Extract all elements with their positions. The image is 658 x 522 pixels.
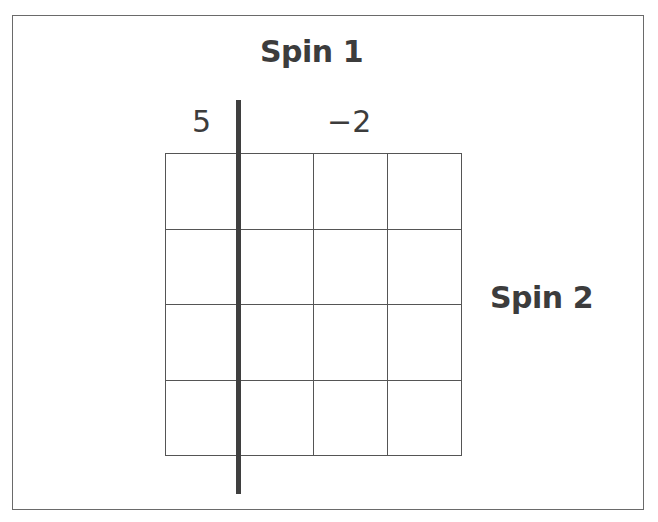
grid-cell xyxy=(388,230,462,306)
spin1-label: Spin 1 xyxy=(260,34,363,69)
grid-cell xyxy=(314,381,388,457)
spin1-value-left: 5 xyxy=(192,104,211,139)
grid-cell xyxy=(166,230,240,306)
grid-cell xyxy=(388,154,462,230)
spin2-label: Spin 2 xyxy=(490,280,593,315)
spin1-value-right: −2 xyxy=(327,104,371,139)
grid-cell xyxy=(388,381,462,457)
grid-cell xyxy=(240,305,314,381)
grid-cell xyxy=(314,230,388,306)
grid-cell xyxy=(314,305,388,381)
grid-cell xyxy=(166,305,240,381)
grid-cell xyxy=(240,381,314,457)
outcome-grid xyxy=(165,153,462,456)
grid-cell xyxy=(240,154,314,230)
grid-cell xyxy=(240,230,314,306)
grid-cell xyxy=(314,154,388,230)
grid-cell xyxy=(166,154,240,230)
grid-cell xyxy=(388,305,462,381)
divider-line xyxy=(236,100,241,494)
grid-cell xyxy=(166,381,240,457)
